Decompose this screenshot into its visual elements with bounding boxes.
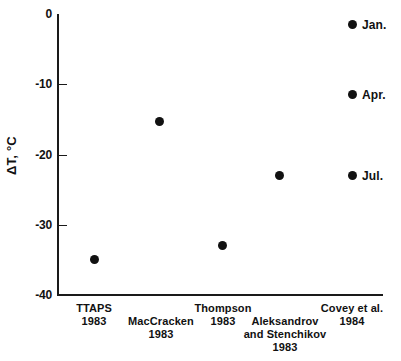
- data-point-covey-jan: [348, 20, 357, 29]
- y-axis-title: ΔT, °C: [4, 126, 19, 186]
- data-point-covey-apr: [348, 90, 357, 99]
- x-label-year: 1983: [233, 341, 337, 354]
- x-label-name: TTAPS: [51, 302, 137, 315]
- data-point-label-covey-jul: Jul.: [362, 170, 383, 182]
- y-tick-label-wrap: -40: [18, 289, 52, 301]
- y-tick-mark: [59, 84, 67, 85]
- y-tick-mark: [59, 155, 67, 156]
- y-tick-label: -30: [22, 219, 52, 231]
- y-tick-label: 0: [22, 8, 52, 20]
- y-tick-label-wrap: -10: [18, 78, 52, 90]
- data-point-covey-jul: [348, 171, 357, 180]
- x-axis-category-label: Covey et al.1984: [306, 302, 398, 328]
- x-label-year: 1983: [113, 328, 209, 341]
- data-point-thompson: [218, 241, 227, 250]
- y-tick-mark: [59, 225, 67, 226]
- y-tick-label-wrap: -20: [18, 149, 52, 161]
- x-axis-line: [57, 294, 383, 296]
- y-tick-label: -10: [22, 78, 52, 90]
- y-tick-label-wrap: 0: [18, 8, 52, 20]
- x-label-name: Covey et al.: [306, 302, 398, 315]
- x-label-name: Thompson: [179, 302, 267, 315]
- scatter-chart: ΔT, °C 0-10-20-30-40 Jan.Apr.Jul. TTAPS1…: [0, 0, 401, 361]
- data-point-aleksandrov: [275, 171, 284, 180]
- data-point-maccracken: [155, 117, 164, 126]
- data-point-label-covey-jan: Jan.: [362, 19, 386, 31]
- y-tick-label: -20: [22, 149, 52, 161]
- data-point-ttaps: [90, 255, 99, 264]
- y-tick-label: -40: [22, 289, 52, 301]
- x-label-name-cont: and Stenchikov: [233, 328, 337, 341]
- x-label-year: 1984: [306, 315, 398, 328]
- data-point-label-covey-apr: Apr.: [362, 89, 386, 101]
- y-tick-label-wrap: -30: [18, 219, 52, 231]
